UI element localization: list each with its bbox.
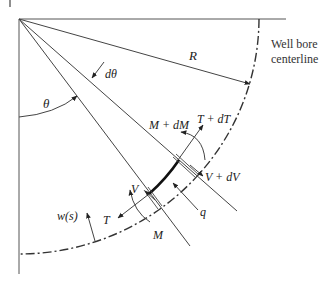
label-v-plus-dv: V + dV (205, 171, 240, 183)
wellbore-diagram: R θ dθ M + dM T + dT V + dV V T M q w(s)… (0, 0, 333, 284)
caption-line-2: centerline (271, 52, 318, 67)
label-dtheta: dθ (105, 68, 117, 80)
displacement-ws-arrow (87, 213, 95, 241)
wellbore-caption: Well bore centerline (271, 37, 318, 67)
label-m: M (153, 229, 163, 241)
label-t-plus-dt: T + dT (197, 113, 230, 125)
tension-t-arrow (118, 194, 149, 218)
label-q: q (200, 206, 206, 218)
label-v: V (131, 183, 138, 195)
label-theta: θ (43, 97, 49, 110)
wellbore-centerline-arc (19, 19, 259, 254)
caption-line-1: Well bore (271, 37, 318, 52)
radius-arrow (19, 19, 250, 84)
label-m-plus-dm: M + dM (149, 119, 189, 131)
moment-plus-dm-arrow (181, 132, 205, 160)
label-t: T (103, 214, 110, 226)
radial-line-theta (19, 19, 190, 246)
pipe-element-segment (149, 160, 179, 194)
label-R: R (189, 49, 197, 62)
dtheta-arrow (92, 62, 104, 78)
label-w-s: w(s) (57, 210, 78, 222)
